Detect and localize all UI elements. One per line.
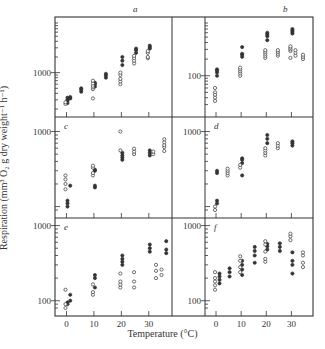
data-point-filled xyxy=(218,278,221,281)
data-point-open xyxy=(132,147,135,150)
data-point-filled xyxy=(215,68,218,71)
data-point-filled xyxy=(291,263,294,266)
data-point-filled xyxy=(266,142,269,145)
data-point-open xyxy=(64,303,67,306)
data-point-filled xyxy=(69,299,72,302)
data-point-filled xyxy=(121,55,124,58)
y-tick-label: 100 xyxy=(188,71,202,81)
data-point-open xyxy=(239,255,242,258)
data-point-open xyxy=(152,150,155,153)
data-point-open xyxy=(213,284,216,287)
data-point-open xyxy=(154,263,157,266)
data-point-open xyxy=(119,77,122,80)
data-point-open xyxy=(119,286,122,289)
data-point-open xyxy=(239,259,242,262)
data-point-filled xyxy=(148,250,151,253)
data-point-filled xyxy=(228,275,231,278)
data-point-open xyxy=(163,138,166,141)
data-point-open xyxy=(132,54,135,57)
data-point-open xyxy=(301,254,304,257)
data-point-filled xyxy=(148,149,151,152)
y-tick-label: 100 xyxy=(38,296,52,306)
data-point-open xyxy=(213,208,216,211)
data-point-filled xyxy=(218,282,221,285)
data-point-open xyxy=(146,55,149,58)
data-point-open xyxy=(264,240,267,243)
data-point-filled xyxy=(215,169,218,172)
data-point-open xyxy=(119,130,122,133)
data-point-open xyxy=(301,251,304,254)
data-point-open xyxy=(239,66,242,69)
data-point-filled xyxy=(148,44,151,47)
data-point-filled xyxy=(253,261,256,264)
data-point-filled xyxy=(69,95,72,98)
data-point-open xyxy=(301,53,304,56)
data-point-filled xyxy=(93,277,96,280)
data-point-open xyxy=(301,266,304,269)
data-point-open xyxy=(132,271,135,274)
data-point-filled xyxy=(228,271,231,274)
data-point-open xyxy=(213,280,216,283)
data-point-filled xyxy=(66,205,69,208)
data-point-filled xyxy=(278,242,281,245)
data-point-filled xyxy=(241,52,244,55)
data-point-open xyxy=(64,174,67,177)
panel-a: a1000 xyxy=(33,4,151,117)
data-point-filled xyxy=(104,72,107,75)
data-point-filled xyxy=(291,259,294,262)
data-point-filled xyxy=(253,249,256,252)
panel-f: f10010000102030 xyxy=(183,221,305,329)
data-point-filled xyxy=(80,87,83,90)
data-point-open xyxy=(213,99,216,102)
data-point-filled xyxy=(148,243,151,246)
data-point-open xyxy=(119,149,122,152)
data-point-open xyxy=(91,79,94,82)
data-point-filled xyxy=(291,251,294,254)
data-point-open xyxy=(239,271,242,274)
y-tick-label: 100 xyxy=(188,296,202,306)
data-point-open xyxy=(289,239,292,242)
x-axis-label: Temperature (°C) xyxy=(0,328,325,339)
data-point-filled xyxy=(253,245,256,248)
data-point-filled xyxy=(121,254,124,257)
data-point-filled xyxy=(291,140,294,143)
data-point-open xyxy=(264,49,267,52)
data-point-open xyxy=(64,288,67,291)
data-point-open xyxy=(91,97,94,100)
data-point-open xyxy=(213,271,216,274)
data-point-open xyxy=(154,269,157,272)
data-point-filled xyxy=(241,45,244,48)
data-point-open xyxy=(264,243,267,246)
data-point-open xyxy=(64,182,67,185)
data-point-filled xyxy=(165,248,168,251)
data-point-filled xyxy=(66,199,69,202)
panel-label: b xyxy=(283,4,288,14)
data-point-filled xyxy=(291,272,294,275)
data-point-open xyxy=(91,283,94,286)
data-point-filled xyxy=(148,247,151,250)
data-point-open xyxy=(160,268,163,271)
y-tick-label: 1000 xyxy=(183,221,202,231)
data-point-filled xyxy=(121,63,124,66)
data-point-filled xyxy=(278,249,281,252)
data-point-filled xyxy=(228,267,231,270)
data-point-open xyxy=(301,261,304,264)
data-point-filled xyxy=(93,184,96,187)
y-tick-label: 1000 xyxy=(33,68,52,78)
data-point-open xyxy=(213,96,216,99)
data-point-filled xyxy=(69,184,72,187)
data-point-open xyxy=(119,280,122,283)
data-point-filled xyxy=(291,27,294,30)
data-point-open xyxy=(64,101,67,104)
data-point-open xyxy=(64,178,67,181)
data-point-open xyxy=(213,86,216,89)
panel-c: c1000 xyxy=(33,121,166,218)
data-point-open xyxy=(91,171,94,174)
data-point-open xyxy=(276,49,279,52)
panel-label: f xyxy=(214,222,218,232)
data-point-open xyxy=(64,306,67,309)
panel-d: d1000 xyxy=(183,121,294,218)
data-point-open xyxy=(91,291,94,294)
data-point-filled xyxy=(93,286,96,289)
data-point-open xyxy=(154,277,157,280)
